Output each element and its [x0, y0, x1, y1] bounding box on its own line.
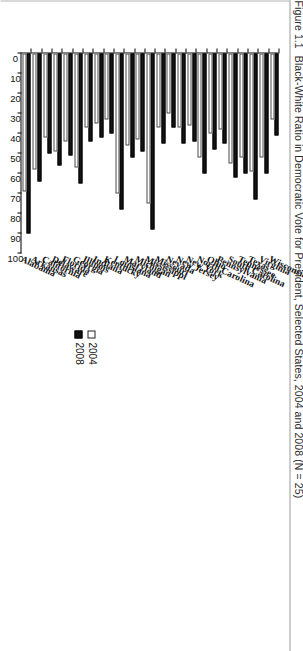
category-tick: [185, 48, 186, 52]
bar-2004-virginia: [259, 53, 263, 157]
bar-2004-arkansas: [32, 53, 36, 169]
category-tick: [72, 48, 73, 52]
category-tick: [268, 48, 269, 52]
category-tick: [82, 48, 83, 52]
value-tick-label-0: 0: [4, 52, 26, 63]
bar-2008-ohio: [212, 53, 216, 149]
legend-label-2008: 2008: [73, 342, 84, 364]
value-tick-label-20: 20: [4, 92, 26, 103]
category-tick: [164, 48, 165, 52]
bar-2004-pennsylvania: [218, 53, 222, 129]
bar-2008-delaware: [57, 53, 61, 165]
bar-2008-georgia: [78, 53, 82, 183]
bar-2008-texas: [253, 53, 257, 199]
value-tick-label-50: 50: [4, 152, 26, 163]
category-tick: [154, 48, 155, 52]
bar-2004-new-york: [187, 53, 191, 125]
figure-page: Figure 1.1Black-White Ratio in Democrati…: [0, 0, 303, 651]
category-tick: [195, 48, 196, 52]
bar-2004-missouri: [156, 53, 160, 127]
category-tick: [123, 48, 124, 52]
bar-2004-mississippi: [146, 53, 150, 203]
figure-number: Figure 1.1: [292, 0, 303, 48]
category-tick: [226, 48, 227, 52]
chart-legend: 2004 2008: [71, 330, 97, 364]
bar-2004-texas: [249, 53, 253, 171]
plot-area: AlabamaArkansasCaliforniaDelawareFlorida…: [21, 52, 279, 252]
value-tick-label-10: 10: [4, 72, 26, 83]
bar-2004-south-carolina: [228, 53, 232, 163]
caption-divider: [289, 0, 290, 651]
value-tick-label-70: 70: [4, 192, 26, 203]
legend-swatch-filled-square-icon: [75, 330, 83, 338]
bar-2004-indiana: [94, 53, 98, 123]
bar-2008-south-carolina: [233, 53, 237, 177]
bar-2008-wisconsin: [274, 53, 278, 135]
bar-2008-arkansas: [37, 53, 41, 181]
category-tick: [247, 48, 248, 52]
bar-2004-wisconsin: [270, 53, 274, 119]
legend-swatch-hollow-square-icon: [88, 330, 96, 338]
value-tick-label-100: 100: [4, 252, 26, 263]
category-tick: [113, 48, 114, 52]
bar-2008-north-carolina: [202, 53, 206, 173]
bar-2004-nevada: [166, 53, 170, 113]
value-tick-label-30: 30: [4, 112, 26, 123]
legend-item-2008: 2008: [73, 330, 84, 364]
bar-2008-virginia: [264, 53, 268, 173]
category-tick: [41, 48, 42, 52]
bar-2008-california: [47, 53, 51, 153]
bar-2004-georgia: [74, 53, 78, 167]
bar-2004-delaware: [53, 53, 57, 151]
category-tick: [92, 48, 93, 52]
value-tick-label-60: 60: [4, 172, 26, 183]
category-tick: [30, 48, 31, 52]
bar-2008-kentucky: [109, 53, 113, 133]
bar-2008-missouri: [161, 53, 165, 143]
category-tick: [144, 48, 145, 52]
bar-2008-tennessee: [243, 53, 247, 173]
bar-2004-tennessee: [239, 53, 243, 157]
bar-2004-north-carolina: [197, 53, 201, 157]
bar-2004-new-jersey: [177, 53, 181, 127]
category-tick: [61, 48, 62, 52]
value-tick-label-80: 80: [4, 212, 26, 223]
bar-2008-illinois: [88, 53, 92, 141]
bar-2004-michigan: [135, 53, 139, 139]
bar-2004-maryland: [125, 53, 129, 145]
bar-2008-nevada: [171, 53, 175, 127]
bar-2004-louisiana: [115, 53, 119, 193]
category-tick: [51, 48, 52, 52]
bar-2008-florida: [68, 53, 72, 155]
rotated-figure-canvas: Figure 1.1Black-White Ratio in Democrati…: [0, 0, 303, 651]
legend-item-2004: 2004: [86, 330, 97, 364]
bar-2004-illinois: [84, 53, 88, 127]
bar-2008-michigan: [140, 53, 144, 151]
bar-2004-california: [43, 53, 47, 137]
value-tick-label-40: 40: [4, 132, 26, 143]
category-tick: [278, 48, 279, 52]
category-tick: [175, 48, 176, 52]
category-tick: [257, 48, 258, 52]
bar-2008-louisiana: [119, 53, 123, 209]
bar-2004-kentucky: [104, 53, 108, 119]
page-edge-rule: [0, 0, 290, 1]
bar-2008-maryland: [130, 53, 134, 157]
legend-label-2004: 2004: [86, 342, 97, 364]
category-tick: [216, 48, 217, 52]
category-tick: [237, 48, 238, 52]
category-tick: [103, 48, 104, 52]
bar-2008-pennsylvania: [223, 53, 227, 143]
bar-2008-alabama: [26, 53, 30, 233]
bar-2008-mississippi: [150, 53, 154, 229]
bar-2008-new-york: [192, 53, 196, 141]
bar-2004-ohio: [208, 53, 212, 133]
category-tick: [134, 48, 135, 52]
bar-2008-indiana: [99, 53, 103, 137]
bar-2004-florida: [63, 53, 67, 141]
bar-2008-new-jersey: [181, 53, 185, 143]
figure-caption: Figure 1.1Black-White Ratio in Democrati…: [292, 0, 303, 640]
value-tick-label-90: 90: [4, 232, 26, 243]
category-tick: [206, 48, 207, 52]
